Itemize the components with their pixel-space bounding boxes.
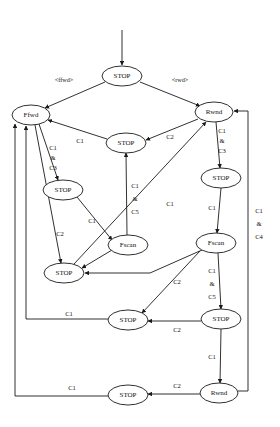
node-label: STOP [56, 269, 73, 277]
edge-label-c1-stopbottom-ffwd: C1 [68, 384, 76, 391]
state-diagram-canvas: STOP Ffwd Rwnd STOP STOP STOP [0, 0, 280, 427]
node-stop-right2[interactable]: STOP [201, 309, 241, 329]
edge-fscan-left-to-stop-mid [126, 153, 127, 235]
edge-label-amp-rwnd-stopright1: & [219, 137, 225, 144]
edge-ffwd-to-stop-left1 [39, 124, 58, 180]
node-label: Rwnd [206, 108, 223, 116]
edge-label-amp-fscanright-stopright2: & [209, 280, 215, 287]
node-fscan-right[interactable]: Fscan [196, 233, 236, 253]
node-label: STOP [213, 174, 230, 182]
nodes-layer: STOP Ffwd Rwnd STOP STOP STOP [12, 66, 241, 405]
edge-label-c1-stopleft3-ffwd: C1 [65, 310, 73, 317]
node-stop-left1[interactable]: STOP [43, 180, 83, 200]
edge-fscan-right-to-stop-right2 [218, 253, 221, 309]
edge-stop-right2-to-rwnd-bottom [220, 329, 221, 383]
node-ffwd[interactable]: Ffwd [12, 105, 50, 125]
node-label: STOP [55, 186, 72, 194]
edge-label-amp-fscanleft-stopmid: & [132, 195, 138, 202]
edge-fscan-left-to-stop-left2 [82, 250, 112, 268]
node-label: STOP [114, 72, 131, 80]
edge-label-c2-fscanright-stopleft3: C2 [173, 278, 181, 285]
edge-label-c1-fscanright-stopright2: C1 [208, 267, 216, 274]
edge-label-c1-rwndbottom-rwndtop: C1 [255, 207, 263, 214]
edge-fscan-right-to-stop-left2 [85, 250, 202, 273]
node-rwnd-bottom[interactable]: Rwnd [200, 383, 238, 403]
node-start-stop[interactable]: STOP [102, 66, 142, 86]
edge-start-stop-to-rwnd-top [140, 82, 200, 106]
edge-label-c3-rwnd-stopright1: C3 [218, 147, 226, 154]
node-rwnd-top[interactable]: Rwnd [195, 102, 233, 122]
node-label: Fscan [120, 241, 137, 249]
node-label: STOP [120, 316, 137, 324]
edge-label-c5-fscanleft-stopmid: C5 [131, 208, 139, 215]
edge-label-c2-stopright2-stopleft3: C2 [173, 326, 181, 333]
edge-label-c2-rwnd-stopmid: C2 [166, 133, 174, 140]
node-fscan-left[interactable]: Fscan [108, 235, 148, 255]
node-label: Rwnd [211, 389, 228, 397]
edge-label-c1-stopleft1-fscanleft: C1 [88, 217, 96, 224]
node-stop-bottom[interactable]: STOP [108, 385, 148, 405]
node-label: STOP [120, 391, 137, 399]
edge-label-c1-rwnd-stopright1: C1 [218, 127, 226, 134]
edge-label-c1-stopmid-ffwd: C1 [76, 137, 84, 144]
node-label: STOP [213, 315, 230, 323]
node-label: Ffwd [24, 111, 39, 119]
edge-label-ffwd-input: <ffwd> [55, 76, 74, 83]
edge-label-c5-fscanright-stopright2: C5 [208, 293, 216, 300]
edge-label-c1-ffwd-stopleft1: C1 [49, 144, 57, 151]
edge-label-c4-rwndbottom-rwndtop: C4 [255, 233, 263, 240]
node-stop-right1[interactable]: STOP [201, 168, 241, 188]
edge-label-rwd-input: <rwd> [172, 76, 189, 83]
node-label: Fscan [208, 239, 225, 247]
edge-label-c3-ffwd-stopleft1: C3 [49, 164, 57, 171]
edge-label-c2-ffwd-stopleft2: C2 [56, 230, 64, 237]
edge-label-amp-ffwd-stopleft1: & [50, 154, 56, 161]
node-label: STOP [118, 139, 135, 147]
edge-label-c1-fscanleft-stopmid: C1 [131, 182, 139, 189]
node-stop-left2[interactable]: STOP [44, 263, 84, 283]
edge-label-c1-stopleft2-rwnd: C1 [166, 200, 174, 207]
edge-start-stop-to-ffwd [45, 82, 105, 108]
node-stop-mid[interactable]: STOP [106, 133, 146, 153]
edge-stop-right1-to-fscan-right [217, 188, 221, 233]
edge-label-c2-rwndbottom-stopbottom: C2 [173, 382, 181, 389]
edge-fscan-right-to-stop-left3 [142, 251, 200, 313]
edge-rwnd-bottom-to-rwnd-top [234, 111, 248, 391]
edge-label-c1-stopright2-rwndbottom: C1 [208, 353, 216, 360]
edge-label-amp-rwndbottom-rwndtop: & [256, 220, 262, 227]
state-diagram-svg: STOP Ffwd Rwnd STOP STOP STOP [0, 0, 280, 427]
edge-label-c1-stopright1-fscanright: C1 [208, 204, 216, 211]
edge-stop-bottom-to-ffwd [15, 124, 108, 396]
edge-labels-layer: <ffwd> <rwd> C1 C2 C1 & C3 C1 & C3 C1 & … [49, 76, 263, 391]
node-stop-left3[interactable]: STOP [108, 310, 148, 330]
